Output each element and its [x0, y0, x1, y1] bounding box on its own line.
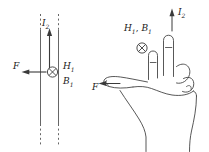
hand-force-label: F: [92, 83, 98, 92]
wire-field-b-label: B1: [63, 77, 73, 88]
physics-hand-rule-figure: I2 F H1 B1 I2 H1, B1 F: [0, 0, 209, 152]
palm-lower-edge: [120, 91, 146, 152]
wire-force-label: F: [13, 62, 19, 71]
field-into-page-icon: [47, 67, 57, 77]
wrist-right-edge: [190, 96, 197, 152]
hand-current-label: I2: [178, 8, 185, 19]
hand-current-arrow-head: [170, 8, 175, 16]
hand-field-label: H1, B1: [124, 24, 152, 35]
figure-vector-graphics: [0, 0, 209, 152]
hand-right-knuckle-edge: [194, 91, 197, 96]
force-arrow-head: [22, 69, 30, 74]
pinky-curl-detail: [187, 85, 192, 90]
wire-current-label: I2: [42, 19, 49, 30]
wire-diagram-group: [22, 14, 59, 145]
index-finger: [164, 35, 174, 76]
ring-finger: [177, 64, 190, 83]
hand-field-into-page-icon: [131, 37, 153, 59]
wire-field-h-label: H1: [63, 62, 75, 73]
pinky-finger: [183, 77, 194, 92]
palm-outline: [133, 87, 194, 96]
hand-force-arrow-head: [99, 81, 107, 86]
